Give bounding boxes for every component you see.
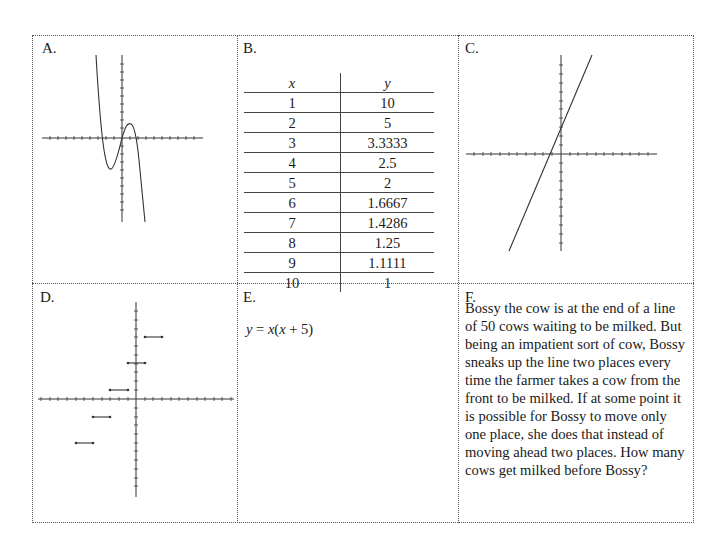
cell-y: 1 <box>341 273 435 293</box>
cell-x: 9 <box>244 253 341 273</box>
cell-x: 1 <box>244 93 341 113</box>
cell-y: 2 <box>341 173 435 193</box>
cell-x: 7 <box>244 213 341 233</box>
cell-x: 2 <box>244 113 341 133</box>
table-row: 33.3333 <box>244 133 434 153</box>
table-row: 71.4286 <box>244 213 434 233</box>
graph-c <box>466 55 657 251</box>
cell-y: 1.4286 <box>341 213 435 233</box>
table-row: 61.6667 <box>244 193 434 213</box>
formula-plus-five: + 5) <box>286 321 314 337</box>
table-header-x: x <box>244 73 341 93</box>
table-header-y: y <box>341 73 435 93</box>
cell-x: 10 <box>244 273 341 293</box>
table-row: 25 <box>244 113 434 133</box>
formula-e: y = x(x + 5) <box>246 321 313 338</box>
cell-y: 2.5 <box>341 153 435 173</box>
cell-y: 1.1111 <box>341 253 435 273</box>
table-row: 101 <box>244 273 434 293</box>
graph-d <box>38 302 234 497</box>
cell-y: 3.3333 <box>341 133 435 153</box>
table-row: 110 <box>244 93 434 113</box>
table-row: 52 <box>244 173 434 193</box>
xy-table: x y 110 25 33.3333 42.5 52 61.6667 71.42… <box>244 73 434 292</box>
cell-y: 10 <box>341 93 435 113</box>
cell-y: 5 <box>341 113 435 133</box>
table-row: 81.25 <box>244 233 434 253</box>
cell-y: 1.6667 <box>341 193 435 213</box>
word-problem-f: Bossy the cow is at the end of a line of… <box>465 299 691 479</box>
table-row: 42.5 <box>244 153 434 173</box>
cell-x: 4 <box>244 153 341 173</box>
graph-a <box>42 55 203 222</box>
cell-x: 8 <box>244 233 341 253</box>
table-row: 91.1111 <box>244 253 434 273</box>
cell-y: 1.25 <box>341 233 435 253</box>
cell-x: 3 <box>244 133 341 153</box>
formula-equals: = <box>252 321 267 337</box>
cell-x: 6 <box>244 193 341 213</box>
cell-x: 5 <box>244 173 341 193</box>
